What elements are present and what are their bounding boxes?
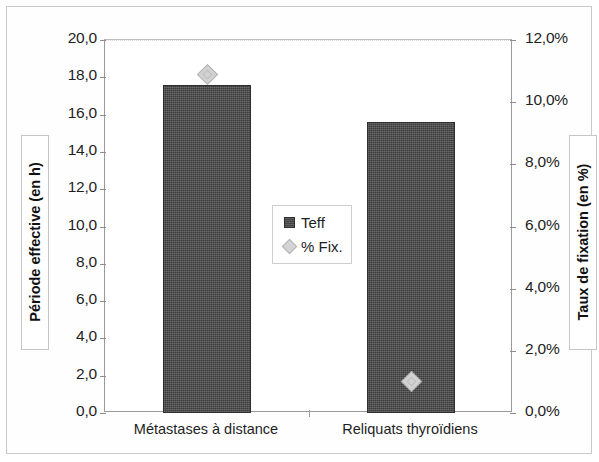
category-label: Métastases à distance <box>96 421 316 437</box>
right-axis-tick <box>510 102 516 103</box>
right-axis-tick-label: 10,0% <box>525 91 595 109</box>
left-axis-tick <box>100 264 106 265</box>
left-axis-tick-label: 0,0 <box>27 402 97 420</box>
right-axis-tick <box>510 164 516 165</box>
right-axis-tick <box>510 289 516 290</box>
right-axis-tick <box>510 227 516 228</box>
chart-frame: Période effective (en h) Taux de fixatio… <box>6 6 592 454</box>
left-axis-tick-label: 2,0 <box>27 365 97 383</box>
left-axis-tick <box>100 40 106 41</box>
legend-item-teff: Teff <box>280 212 344 232</box>
left-axis-tick <box>100 338 106 339</box>
left-axis-tick <box>100 301 106 302</box>
left-axis-tick <box>100 115 106 116</box>
left-axis-tick <box>100 227 106 228</box>
legend-item-fixation: % Fix. <box>280 236 344 256</box>
right-axis-tick <box>510 413 516 414</box>
right-axis-tick-label: 6,0% <box>525 216 595 234</box>
right-axis-tick-label: 4,0% <box>525 278 595 296</box>
legend-label-teff: Teff <box>301 214 325 231</box>
right-axis-tick-label: 0,0% <box>525 402 595 420</box>
bar <box>367 122 455 413</box>
category-axis-tick <box>309 410 310 417</box>
data-point-marker <box>196 64 217 85</box>
left-axis-tick <box>100 189 106 190</box>
bar <box>163 85 251 413</box>
y-axis-title-left: Période effective (en h) <box>21 135 49 350</box>
diamond-marker-icon <box>280 238 298 254</box>
left-axis-tick-label: 20,0 <box>27 29 97 47</box>
legend-label-fixation: % Fix. <box>301 238 343 255</box>
right-axis-tick <box>510 351 516 352</box>
right-axis-tick <box>510 40 516 41</box>
left-axis-tick-label: 12,0 <box>27 178 97 196</box>
y-axis-title-left-text: Période effective (en h) <box>27 138 43 346</box>
gridline <box>105 40 511 41</box>
right-axis-tick-label: 8,0% <box>525 153 595 171</box>
left-axis-tick <box>100 77 106 78</box>
right-axis-tick-label: 12,0% <box>525 29 595 47</box>
left-axis-tick <box>100 376 106 377</box>
left-axis-tick-label: 6,0 <box>27 290 97 308</box>
square-marker-icon <box>280 214 298 230</box>
left-axis-tick-label: 4,0 <box>27 327 97 345</box>
left-axis-tick <box>100 413 106 414</box>
left-axis-tick <box>100 152 106 153</box>
category-label: Reliquats thyroïdiens <box>300 421 520 437</box>
chart-legend: Teff % Fix. <box>272 205 352 264</box>
left-axis-tick-label: 14,0 <box>27 141 97 159</box>
left-axis-tick-label: 16,0 <box>27 104 97 122</box>
left-axis-tick-label: 8,0 <box>27 253 97 271</box>
left-axis-tick-label: 10,0 <box>27 216 97 234</box>
right-axis-tick-label: 2,0% <box>525 340 595 358</box>
left-axis-tick-label: 18,0 <box>27 66 97 84</box>
